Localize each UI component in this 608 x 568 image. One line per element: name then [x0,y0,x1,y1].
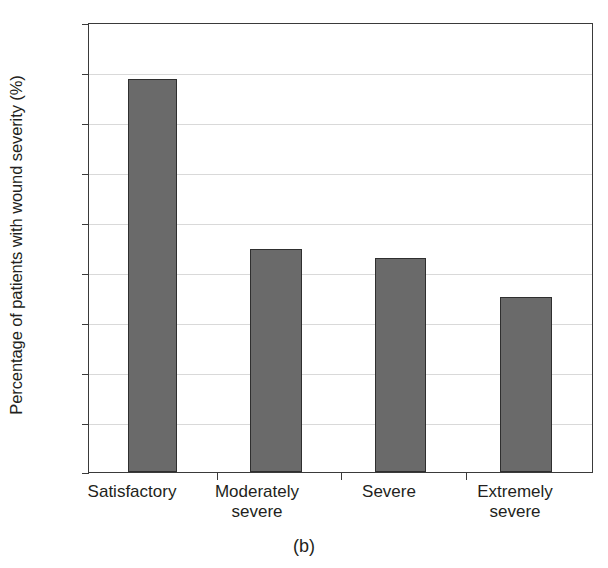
y-tick-mark-15 [82,324,89,325]
x-label-line: severe [192,502,322,522]
x-label-line: Moderately [192,482,322,502]
bar-severe [375,258,426,472]
x-label-line: Extremely [450,482,580,502]
y-tick-mark-30 [82,174,89,175]
y-tick-mark-5 [82,424,89,425]
y-tick-mark-45 [82,24,89,25]
x-label-line: Satisfactory [66,482,198,502]
gridline-40 [89,74,592,75]
bar-chart-figure: Percentage of patients with wound severi… [0,0,608,568]
y-axis-title: Percentage of patients with wound severi… [2,0,30,495]
y-tick-mark-10 [82,374,89,375]
bar-satisfactory [128,79,177,472]
bar-extremely-severe [500,297,552,472]
figure-caption: (b) [0,536,608,557]
y-tick-mark-25 [82,224,89,225]
x-category-label-severe: Severe [325,482,453,502]
y-tick-mark-20 [82,274,89,275]
y-tick-mark-35 [82,124,89,125]
plot-area [88,23,593,473]
bar-moderately-severe [250,249,302,472]
x-tick-mark-2 [341,472,342,480]
x-tick-mark-3 [466,472,467,480]
x-category-label-extremely-severe: Extremely severe [450,482,580,522]
x-tick-mark-1 [217,472,218,480]
x-label-line: severe [450,502,580,522]
y-tick-mark-0 [82,473,89,474]
x-label-line: Severe [325,482,453,502]
y-tick-mark-40 [82,74,89,75]
x-category-label-satisfactory: Satisfactory [66,482,198,502]
x-category-label-moderately-severe: Moderately severe [192,482,322,522]
